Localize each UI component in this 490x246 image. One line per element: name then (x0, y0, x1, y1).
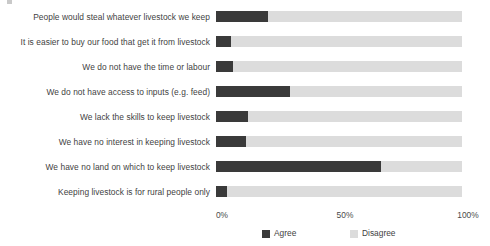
bar-track (216, 11, 462, 22)
category-label: People would steal whatever livestock we… (0, 12, 216, 22)
category-label: Keeping livestock is for rural people on… (0, 187, 216, 197)
bar-segment-disagree (233, 61, 462, 72)
plot-area: People would steal whatever livestock we… (0, 4, 490, 209)
x-tick-label: 100% (457, 209, 478, 221)
bar-segment-agree (216, 136, 246, 147)
bar-segment-disagree (246, 136, 462, 147)
category-label: We do not have access to inputs (e.g. fe… (0, 87, 216, 97)
bar-segment-agree (216, 36, 231, 47)
chart-row: We do not have access to inputs (e.g. fe… (0, 79, 490, 104)
bar-segment-agree (216, 111, 248, 122)
x-tick-label: 50% (337, 209, 354, 221)
bar-track (216, 186, 462, 197)
bar-track (216, 136, 462, 147)
bar-segment-disagree (268, 11, 462, 22)
legend-swatch-icon (350, 230, 358, 238)
bar-track (216, 61, 462, 72)
category-label: It is easier to buy our food that get it… (0, 37, 216, 47)
bar-segment-agree (216, 11, 268, 22)
chart-row: We do not have the time or labour (0, 54, 490, 79)
bar-segment-agree (216, 186, 227, 197)
stacked-bar-chart: People would steal whatever livestock we… (0, 0, 490, 246)
category-label: We have no land on which to keep livesto… (0, 162, 216, 172)
x-tick-label: 0% (216, 209, 228, 221)
category-label: We have no interest in keeping livestock (0, 137, 216, 147)
bar-segment-disagree (227, 186, 462, 197)
bar-segment-disagree (381, 161, 462, 172)
chart-row: We have no interest in keeping livestock (0, 129, 490, 154)
legend-item-disagree: Disagree (350, 228, 396, 239)
chart-row: It is easier to buy our food that get it… (0, 29, 490, 54)
bar-segment-agree (216, 161, 381, 172)
chart-row: People would steal whatever livestock we… (0, 4, 490, 29)
legend-swatch-icon (262, 230, 270, 238)
bar-segment-disagree (290, 86, 462, 97)
x-axis: 0% 50% 100% (222, 209, 468, 223)
chart-row: We lack the skills to keep livestock (0, 104, 490, 129)
bar-track (216, 161, 462, 172)
bar-segment-disagree (231, 36, 462, 47)
bar-track (216, 111, 462, 122)
legend-label: Agree (274, 228, 296, 239)
bar-track (216, 36, 462, 47)
chart-row: We have no land on which to keep livesto… (0, 154, 490, 179)
legend-item-agree: Agree (262, 228, 296, 239)
category-label: We lack the skills to keep livestock (0, 112, 216, 122)
chart-legend: Agree Disagree (0, 228, 490, 242)
legend-label: Disagree (362, 228, 396, 239)
chart-row: Keeping livestock is for rural people on… (0, 179, 490, 204)
category-label: We do not have the time or labour (0, 62, 216, 72)
bar-segment-agree (216, 61, 233, 72)
bar-segment-disagree (248, 111, 462, 122)
bar-track (216, 86, 462, 97)
bar-segment-agree (216, 86, 290, 97)
